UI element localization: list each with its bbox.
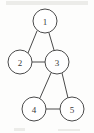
mark-bottom-left [14, 128, 25, 131]
node-1-circle[interactable] [33, 9, 57, 33]
mark-bottom-right [58, 129, 80, 131]
node-2-circle[interactable] [8, 50, 32, 74]
node-5[interactable]: 5 [60, 97, 84, 121]
node-4-circle[interactable] [22, 97, 46, 121]
node-1[interactable]: 1 [33, 9, 57, 33]
node-3-circle[interactable] [45, 50, 69, 74]
node-group: 1 2 3 4 5 [8, 9, 84, 121]
graph-canvas: 1 2 3 4 5 [0, 0, 94, 133]
node-3[interactable]: 3 [45, 50, 69, 74]
graph-diagram: 1 2 3 4 5 [0, 0, 94, 133]
node-2[interactable]: 2 [8, 50, 32, 74]
node-4[interactable]: 4 [22, 97, 46, 121]
edge-3-5 [62, 73, 68, 98]
edge-1-2 [28, 31, 37, 53]
edge-3-4 [40, 73, 51, 98]
node-5-circle[interactable] [60, 97, 84, 121]
mark-top-band [6, 1, 88, 5]
edge-1-3 [49, 33, 54, 50]
